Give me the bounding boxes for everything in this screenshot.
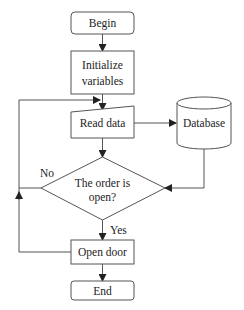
decision-label-line2: open? xyxy=(89,191,116,204)
yes-label: Yes xyxy=(110,224,127,236)
arrow-database-decision xyxy=(165,149,204,188)
open-door-label: Open door xyxy=(78,246,127,259)
initialize-label-line2: variables xyxy=(82,75,124,87)
database-label: Database xyxy=(183,117,225,129)
initialize-node: Initialize variables xyxy=(71,51,134,94)
initialize-label-line1: Initialize xyxy=(82,59,123,71)
flowchart: Begin Initialize variables Read data Dat… xyxy=(0,0,244,310)
database-node: Database xyxy=(177,97,231,149)
decision-label-line1: The order is xyxy=(75,177,131,189)
begin-label: Begin xyxy=(89,17,117,30)
read-data-label: Read data xyxy=(80,117,126,129)
end-label: End xyxy=(93,285,112,297)
decision-node: The order is open? xyxy=(41,157,165,220)
no-label: No xyxy=(40,167,54,179)
begin-node: Begin xyxy=(71,12,134,34)
read-data-node: Read data xyxy=(71,106,134,138)
open-door-node: Open door xyxy=(71,240,134,264)
end-node: End xyxy=(71,281,134,300)
